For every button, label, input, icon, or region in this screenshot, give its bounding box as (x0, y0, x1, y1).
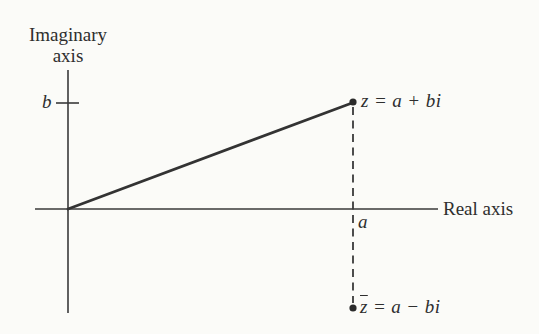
imaginary-axis-label: Imaginary axis (17, 24, 119, 66)
a-tick-label: a (358, 211, 368, 232)
z-conjugate-label-zbar: z (360, 296, 368, 317)
z-point-label: z = a + bi (361, 90, 441, 111)
complex-plane-figure: Imaginary axis b Real axis z = a + bi a … (0, 0, 539, 334)
imaginary-axis-label-line1: Imaginary (17, 24, 119, 45)
b-tick-label: b (42, 91, 52, 112)
z-conjugate-point (349, 304, 356, 311)
imaginary-axis-label-line2: axis (17, 45, 119, 66)
z-conjugate-label: z = a − bi (360, 296, 440, 317)
real-axis-label: Real axis (443, 198, 513, 219)
z-conjugate-label-rest: = a − bi (368, 296, 441, 317)
z-point (349, 98, 356, 105)
z-vector-line (68, 103, 352, 209)
